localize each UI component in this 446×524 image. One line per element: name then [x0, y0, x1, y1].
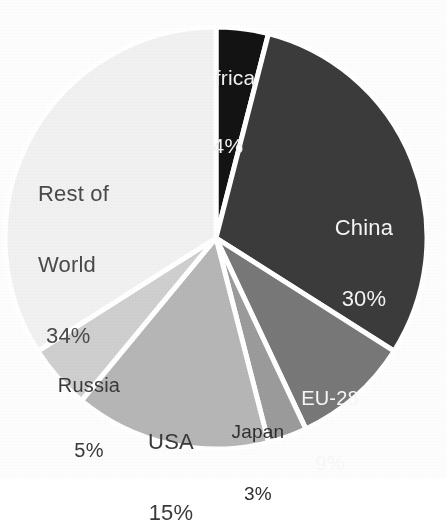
pie-slice-group [5, 27, 427, 449]
slice-label-japan-value: 3% [222, 484, 294, 505]
slice-label-usa-value: 15% [131, 501, 211, 524]
